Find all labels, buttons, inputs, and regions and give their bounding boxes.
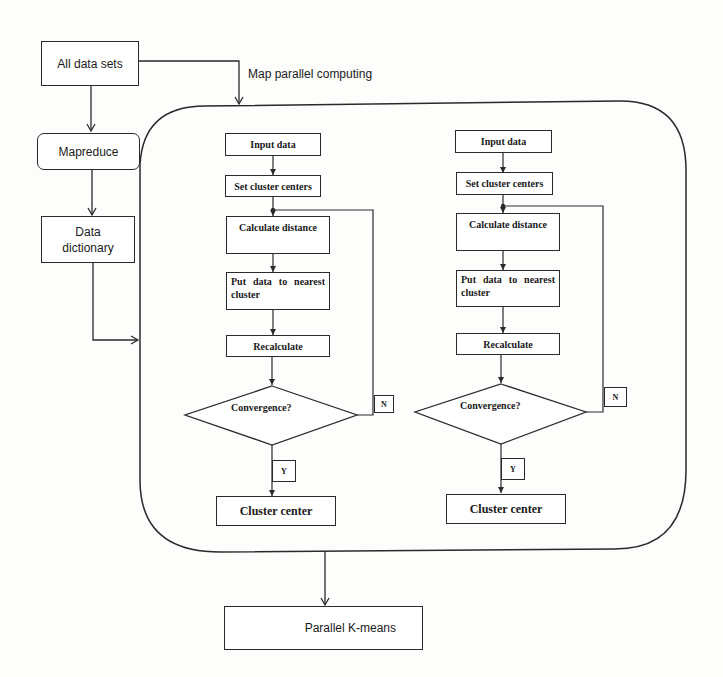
yes-branch-label-1: Y (272, 460, 296, 482)
cluster-center-box-2: Cluster center (446, 494, 566, 524)
recalculate-label-2: Recalculate (483, 339, 532, 350)
convergence-diamond-1 (185, 386, 357, 445)
no-branch-label-1: N (374, 395, 394, 413)
convergence-label-1: Convergence? (231, 402, 292, 413)
yes-text-1: Y (281, 467, 287, 476)
input-data-box-1: Input data (225, 133, 321, 156)
data-dictionary-label-line1: Data (75, 224, 100, 240)
put-data-nearest-cluster-box-2: Put data to nearest cluster (456, 270, 560, 307)
calculate-distance-label-2: Calculate distance (469, 219, 547, 230)
calculate-distance-label-1: Calculate distance (239, 222, 317, 233)
parallel-k-means-label: Parallel K-means (305, 621, 396, 635)
put-data-label-1: Put data to nearest cluster (227, 273, 329, 303)
recalculate-box-1: Recalculate (226, 335, 330, 357)
convergence-diamond-2 (415, 384, 586, 444)
data-dictionary-box: Data dictionary (41, 216, 135, 263)
calculate-distance-box-2: Calculate distance (456, 213, 560, 251)
mapreduce-box: Mapreduce (37, 133, 140, 170)
set-cluster-centers-label-2: Set cluster centers (466, 178, 544, 189)
map-parallel-computing-label: Map parallel computing (248, 67, 372, 81)
convergence-label-2: Convergence? (460, 400, 521, 411)
recalculate-box-2: Recalculate (456, 333, 560, 355)
cluster-center-label-2: Cluster center (470, 502, 543, 517)
cluster-center-label-1: Cluster center (240, 504, 313, 519)
map-container-outline (140, 101, 686, 552)
put-data-nearest-cluster-box-1: Put data to nearest cluster (226, 272, 330, 310)
put-data-label-2: Put data to nearest cluster (457, 271, 559, 301)
recalculate-label-1: Recalculate (253, 341, 302, 352)
all-data-sets-box: All data sets (41, 41, 139, 86)
connector-lines (0, 0, 723, 677)
cluster-center-box-1: Cluster center (216, 496, 336, 526)
data-dictionary-label-line2: dictionary (62, 240, 113, 256)
yes-branch-label-2: Y (501, 458, 525, 480)
yes-text-2: Y (510, 465, 516, 474)
no-text-2: N (613, 393, 619, 402)
flowchart-canvas: All data sets Mapreduce Data dictionary … (0, 0, 723, 677)
input-data-label-2: Input data (481, 136, 526, 147)
parallel-k-means-box: Parallel K-means (224, 606, 423, 650)
all-data-sets-label: All data sets (57, 57, 122, 71)
input-data-label-1: Input data (250, 139, 295, 150)
calculate-distance-box-1: Calculate distance (226, 216, 330, 254)
set-cluster-centers-label-1: Set cluster centers (234, 181, 312, 192)
no-branch-label-2: N (604, 387, 627, 407)
set-cluster-centers-box-2: Set cluster centers (456, 172, 553, 195)
input-data-box-2: Input data (455, 130, 552, 153)
set-cluster-centers-box-1: Set cluster centers (225, 175, 321, 197)
no-text-1: N (381, 400, 387, 409)
mapreduce-label: Mapreduce (58, 145, 118, 159)
